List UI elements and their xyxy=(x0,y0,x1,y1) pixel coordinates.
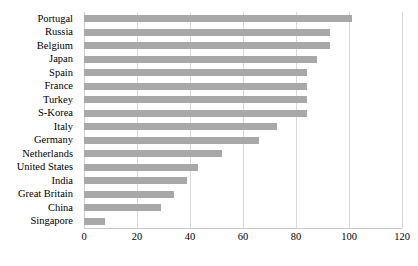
x-axis-tick-label: 100 xyxy=(341,232,357,243)
y-axis-category-labels: PortugalRussiaBelgiumJapanSpainFranceTur… xyxy=(0,12,78,228)
y-axis-label: Great Britain xyxy=(0,188,78,202)
bar-row xyxy=(84,201,402,215)
bar-row xyxy=(84,188,402,202)
bar xyxy=(84,29,330,36)
bar-row xyxy=(84,53,402,67)
bar-row xyxy=(84,66,402,80)
bar-row xyxy=(84,134,402,148)
y-axis-label: Germany xyxy=(0,134,78,148)
bar-row xyxy=(84,39,402,53)
x-axis-tick: 40 xyxy=(185,228,196,243)
bar-row xyxy=(84,174,402,188)
bar-row xyxy=(84,80,402,94)
bar xyxy=(84,150,222,157)
y-axis-label: Netherlands xyxy=(0,147,78,161)
y-axis-label: China xyxy=(0,201,78,215)
plot-area xyxy=(84,12,402,228)
x-axis-tick: 60 xyxy=(238,228,249,243)
x-axis-tick: 20 xyxy=(132,228,143,243)
y-axis-label: Italy xyxy=(0,120,78,134)
bar xyxy=(84,218,105,225)
y-axis-label: Japan xyxy=(0,53,78,67)
bar xyxy=(84,137,259,144)
y-axis-label: India xyxy=(0,174,78,188)
bar xyxy=(84,83,307,90)
bar-row xyxy=(84,161,402,175)
y-axis-label: France xyxy=(0,80,78,94)
x-axis-tick: 0 xyxy=(81,228,86,243)
bar xyxy=(84,177,187,184)
x-axis-tick: 100 xyxy=(341,228,357,243)
bar-series xyxy=(84,12,402,228)
x-axis-tick: 80 xyxy=(291,228,302,243)
x-axis-tick-label: 40 xyxy=(185,232,196,243)
x-axis-tick-label: 60 xyxy=(238,232,249,243)
x-axis-tick-label: 0 xyxy=(81,232,86,243)
y-axis-label: Russia xyxy=(0,26,78,40)
bar xyxy=(84,15,352,22)
y-axis-label: Portugal xyxy=(0,12,78,26)
y-axis-label: Belgium xyxy=(0,39,78,53)
bar-row xyxy=(84,147,402,161)
bar xyxy=(84,96,307,103)
y-axis-label: Turkey xyxy=(0,93,78,107)
bar-row xyxy=(84,26,402,40)
y-axis-label: United States xyxy=(0,161,78,175)
y-axis-label: Spain xyxy=(0,66,78,80)
bar xyxy=(84,56,317,63)
bar-row xyxy=(84,120,402,134)
x-axis-tick-labels: 020406080100120 xyxy=(84,228,402,250)
bar-row xyxy=(84,12,402,26)
bar xyxy=(84,204,161,211)
bar xyxy=(84,69,307,76)
gridline xyxy=(402,12,403,228)
bar-row xyxy=(84,215,402,229)
y-axis-label: Singapore xyxy=(0,215,78,229)
bar xyxy=(84,42,330,49)
bar xyxy=(84,110,307,117)
x-axis-tick-label: 20 xyxy=(132,232,143,243)
bar xyxy=(84,164,198,171)
bar-row xyxy=(84,107,402,121)
x-axis-tick: 120 xyxy=(394,228,410,243)
bar-row xyxy=(84,93,402,107)
bar xyxy=(84,123,277,130)
x-axis-tick-label: 120 xyxy=(394,232,410,243)
bar xyxy=(84,191,174,198)
x-axis-tick-label: 80 xyxy=(291,232,302,243)
bar-chart: PortugalRussiaBelgiumJapanSpainFranceTur… xyxy=(0,0,418,266)
y-axis-label: S-Korea xyxy=(0,107,78,121)
